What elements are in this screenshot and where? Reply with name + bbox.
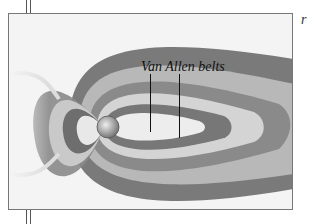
binding-line-top-right [30, 0, 31, 14]
magnetosphere-illustration [9, 14, 293, 210]
van-allen-belts-label: Van Allen belts [141, 59, 225, 75]
corner-mark: r [301, 12, 306, 28]
binding-line-bottom-right [30, 210, 31, 224]
label-pointer-inner [150, 74, 151, 132]
binding-line-top-left [26, 0, 27, 14]
label-pointer-outer [179, 74, 180, 138]
illustration-frame [8, 13, 293, 210]
binding-line-bottom-left [26, 210, 27, 224]
